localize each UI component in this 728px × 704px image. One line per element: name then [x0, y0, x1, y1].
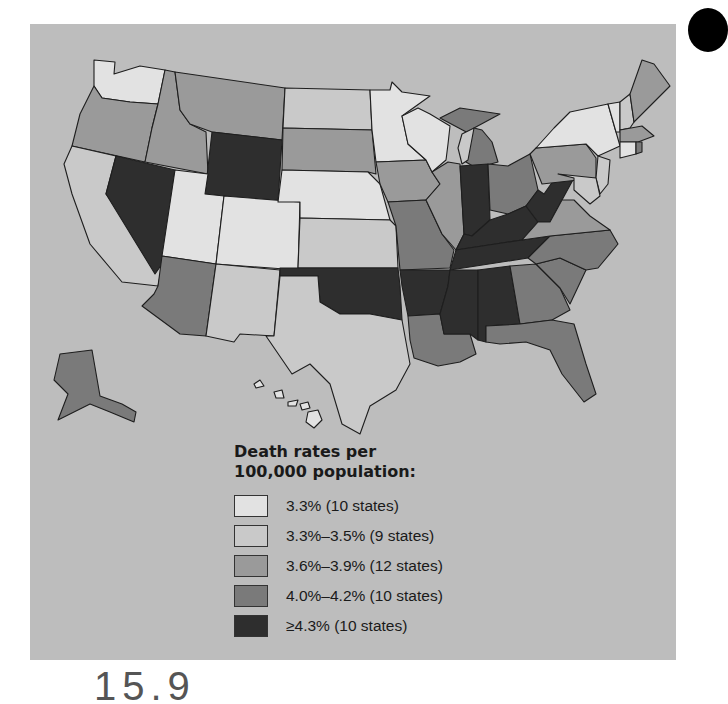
map-legend: Death rates per 100,000 population: 3.3%…	[234, 442, 443, 644]
legend-label: ≥4.3% (10 states)	[286, 617, 407, 635]
legend-item: 3.3%–3.5% (9 states)	[234, 524, 443, 548]
state-connecticut	[620, 142, 636, 158]
page-tab-circle-icon	[688, 8, 728, 52]
state-north-dakota	[283, 88, 372, 130]
state-kansas	[298, 218, 398, 268]
state-hawaii-2	[274, 390, 284, 398]
legend-title: Death rates per 100,000 population:	[234, 442, 443, 482]
legend-label: 3.3%–3.5% (9 states)	[286, 527, 434, 545]
state-new-mexico	[206, 264, 280, 342]
state-wyoming	[205, 132, 282, 202]
legend-item: 3.6%–3.9% (12 states)	[234, 554, 443, 578]
map-panel: Death rates per 100,000 population: 3.3%…	[30, 24, 676, 660]
legend-label: 3.6%–3.9% (12 states)	[286, 557, 443, 575]
state-hawaii-3	[288, 400, 298, 406]
state-hawaii-big	[306, 410, 322, 428]
state-rhode-island	[636, 142, 642, 154]
state-florida	[486, 320, 596, 402]
state-south-dakota	[282, 128, 376, 174]
legend-item: ≥4.3% (10 states)	[234, 614, 443, 638]
legend-item: 4.0%–4.2% (10 states)	[234, 584, 443, 608]
legend-label: 4.0%–4.2% (10 states)	[286, 587, 443, 605]
state-washington	[94, 60, 165, 104]
legend-title-line1: Death rates per	[234, 442, 443, 462]
legend-label: 3.3% (10 states)	[286, 497, 399, 515]
page-number-partial: 15.9	[94, 666, 196, 704]
state-colorado	[216, 196, 300, 270]
legend-swatch-icon	[234, 525, 268, 547]
state-hawaii-4	[300, 402, 310, 410]
legend-item: 3.3% (10 states)	[234, 494, 443, 518]
legend-swatch-icon	[234, 495, 268, 517]
state-alaska	[54, 350, 136, 422]
legend-swatch-icon	[234, 555, 268, 577]
state-hawaii-1	[254, 380, 264, 388]
legend-title-line2: 100,000 population:	[234, 462, 443, 482]
state-maine	[630, 60, 670, 122]
legend-swatch-icon	[234, 585, 268, 607]
legend-swatch-icon	[234, 615, 268, 637]
